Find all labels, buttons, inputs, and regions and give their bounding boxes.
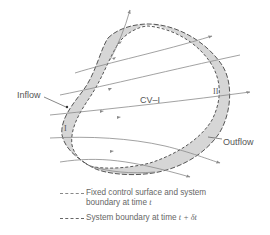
inflow-leader bbox=[44, 97, 66, 107]
legend-text-system: System boundary at time t + δt bbox=[86, 213, 197, 223]
legend: Fixed control surface and system boundar… bbox=[60, 188, 206, 223]
fine-dash-swatch-icon bbox=[60, 193, 84, 194]
cv-label: CV–I bbox=[140, 95, 160, 105]
legend-item-control-surface: Fixed control surface and system boundar… bbox=[60, 188, 206, 208]
outflow-label: Outflow bbox=[223, 137, 254, 147]
region-one-label: I bbox=[64, 124, 67, 133]
region-one-shaded bbox=[62, 24, 148, 166]
legend-item-system-boundary: System boundary at time t + δt bbox=[60, 213, 206, 223]
legend-text-line1: Fixed control surface and system bbox=[86, 188, 206, 198]
region-two-label: II bbox=[213, 87, 219, 96]
inflow-leader-dot bbox=[66, 106, 68, 108]
inflow-label: Inflow bbox=[17, 90, 41, 100]
legend-text-line2: boundary at time t bbox=[86, 198, 206, 208]
coarse-dash-swatch-icon bbox=[60, 218, 84, 219]
